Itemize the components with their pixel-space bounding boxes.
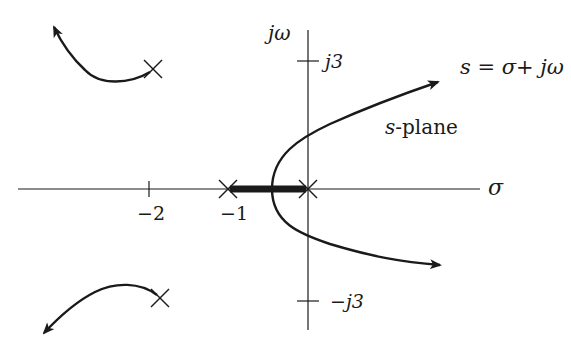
pole-lower-complex-x-icon: [151, 289, 169, 307]
equation-label: s = σ+ jω: [460, 55, 564, 79]
imag-axis-label: jω: [264, 21, 291, 45]
real-tick-label-minus1: −1: [220, 202, 248, 224]
s-plane-label-rest: -plane: [395, 115, 458, 139]
lower-right-branch: [272, 189, 440, 265]
root-locus-figure: jω σ j3 −j3 −2 −1 s = σ+ jω s-plane: [0, 0, 571, 353]
real-axis-label: σ: [488, 175, 504, 200]
real-tick-label-minus2: −2: [137, 202, 165, 224]
pole-upper-complex-x-icon: [144, 60, 162, 78]
s-plane-label-s: s: [385, 115, 395, 139]
imag-tick-label-j3: j3: [321, 50, 343, 72]
lower-left-branch: [44, 285, 157, 333]
imag-tick-label-minus-j3: −j3: [330, 290, 364, 312]
s-plane-label: s-plane: [385, 115, 458, 139]
upper-left-branch: [54, 27, 150, 82]
